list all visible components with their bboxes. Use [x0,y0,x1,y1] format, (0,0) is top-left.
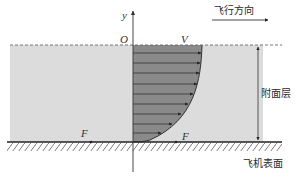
boundary-layer-label: 附面层 [261,89,291,99]
force-label-right: F [182,131,189,142]
boundary-layer-diagram: y O V 飞行方向 附面层 飞机表面 F F [0,0,295,181]
aircraft-surface [7,142,282,151]
force-label-left: F [81,128,88,139]
aircraft-surface-label: 飞机表面 [243,159,283,169]
origin-label: O [120,34,128,45]
flight-direction-label: 飞行方向 [214,6,254,16]
y-axis-label: y [122,10,127,21]
force-point-right [175,141,178,144]
force-point-left [90,141,93,144]
velocity-label: V [181,34,188,45]
